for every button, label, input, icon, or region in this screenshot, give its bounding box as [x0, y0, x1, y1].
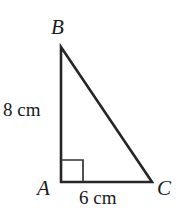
side-length-label-ac: 6 cm [79, 188, 116, 207]
right-triangle-figure: B A C 8 cm 6 cm [0, 0, 179, 211]
triangle-abc-outline [61, 47, 152, 182]
right-angle-marker-icon [61, 160, 83, 182]
side-length-label-ab: 8 cm [3, 100, 40, 119]
vertex-label-c: C [157, 178, 171, 199]
vertex-label-a: A [37, 178, 50, 199]
vertex-label-b: B [51, 17, 64, 38]
